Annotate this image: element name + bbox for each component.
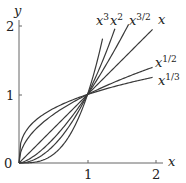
y-axis-label: y bbox=[14, 4, 21, 17]
label-x-third: x1/3 bbox=[158, 73, 180, 87]
label-x-cubed: x3 bbox=[96, 13, 109, 27]
label-x-squared: x2 bbox=[110, 13, 123, 27]
origin-label: 0 bbox=[4, 157, 12, 170]
y-tick-label-1: 1 bbox=[6, 89, 14, 102]
label-x-linear: x bbox=[158, 13, 165, 26]
label-x-half: x1/2 bbox=[155, 55, 177, 69]
power-functions-chart bbox=[0, 0, 186, 183]
curve-x bbox=[19, 29, 153, 163]
x-axis-label: x bbox=[168, 155, 175, 168]
x-tick-label-2: 2 bbox=[152, 168, 160, 181]
curve-x-1-3 bbox=[19, 77, 153, 163]
y-tick-label-2: 2 bbox=[6, 20, 14, 33]
curves-group bbox=[19, 24, 153, 163]
label-x-three-halves: x3/2 bbox=[129, 13, 151, 27]
curve-x-3 bbox=[19, 39, 103, 163]
x-tick-label-1: 1 bbox=[84, 168, 92, 181]
curve-x-3-2 bbox=[19, 24, 129, 163]
